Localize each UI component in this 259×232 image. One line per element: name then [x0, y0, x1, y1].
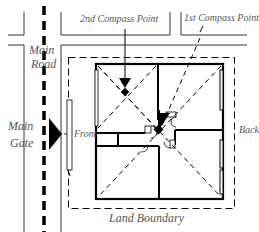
site-plan-diagram: 2nd Compass Point 1st Compass Point Main…: [0, 0, 259, 232]
site-plan-drawing: [0, 0, 259, 232]
label-main-road-1: Main: [29, 44, 54, 56]
label-2nd-compass-point: 2nd Compass Point: [80, 14, 158, 24]
front-path: [67, 100, 72, 170]
label-back: Back: [239, 125, 259, 135]
label-main-road-2: Road: [31, 58, 56, 70]
label-1st-compass-point: 1st Compass Point: [184, 13, 259, 23]
label-land-boundary: Land Boundary: [109, 212, 184, 224]
gate-arrow-icon: [49, 118, 62, 150]
label-main-gate-2: Gate: [10, 137, 33, 149]
label-main-gate-1: Main: [8, 120, 33, 132]
compass-arrow-icon: [119, 78, 131, 88]
label-front: Front: [74, 129, 96, 139]
